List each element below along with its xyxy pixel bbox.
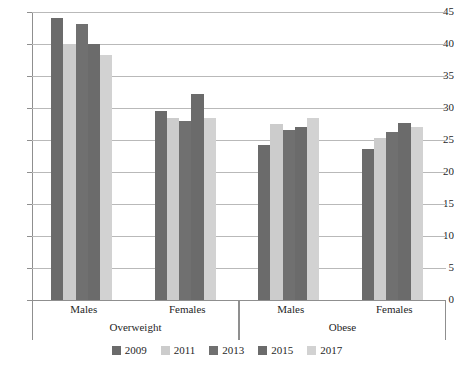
legend-label: 2015 (271, 345, 293, 356)
bar (76, 24, 88, 300)
chart-legend: 20092011201320152017 (0, 345, 454, 356)
legend-swatch-icon (161, 346, 170, 355)
bar (283, 130, 295, 300)
category-group-box: MalesFemalesOverweight (32, 300, 239, 340)
bar (155, 111, 167, 300)
bar (258, 145, 270, 300)
legend-item[interactable]: 2017 (307, 345, 342, 356)
legend-label: 2013 (222, 345, 244, 356)
bar (167, 118, 179, 300)
legend-item[interactable]: 2015 (258, 345, 293, 356)
legend-label: 2017 (320, 345, 342, 356)
gridline (32, 12, 446, 13)
category-group-box: MalesFemalesObese (239, 300, 446, 340)
category-sub-label: Females (343, 303, 447, 316)
category-group-label: Obese (239, 321, 446, 334)
category-sub-label: Males (32, 303, 136, 316)
category-sub-label: Males (239, 303, 343, 316)
legend-label: 2009 (125, 345, 147, 356)
legend-swatch-icon (258, 346, 267, 355)
bar (362, 149, 374, 300)
bar (295, 127, 307, 300)
legend-item[interactable]: 2011 (161, 345, 196, 356)
legend-label: 2011 (174, 345, 196, 356)
bar (88, 44, 100, 300)
bar (191, 94, 203, 300)
bar (307, 118, 319, 300)
plot-area (32, 12, 446, 300)
bar (386, 132, 398, 300)
legend-swatch-icon (209, 346, 218, 355)
bar (398, 123, 410, 300)
bar (63, 44, 75, 300)
bar (100, 55, 112, 300)
category-group-label: Overweight (32, 321, 239, 334)
bar (179, 121, 191, 300)
legend-swatch-icon (307, 346, 316, 355)
category-axis: MalesFemalesOverweightMalesFemalesObese (32, 300, 446, 340)
legend-item[interactable]: 2009 (112, 345, 147, 356)
bar (270, 124, 282, 300)
bar (411, 127, 423, 300)
bar-chart: 454035302520151050 MalesFemalesOverweigh… (0, 0, 454, 367)
bar (204, 118, 216, 300)
legend-item[interactable]: 2013 (209, 345, 244, 356)
bar (374, 138, 386, 300)
legend-swatch-icon (112, 346, 121, 355)
bar (51, 18, 63, 300)
category-sub-label: Females (136, 303, 240, 316)
